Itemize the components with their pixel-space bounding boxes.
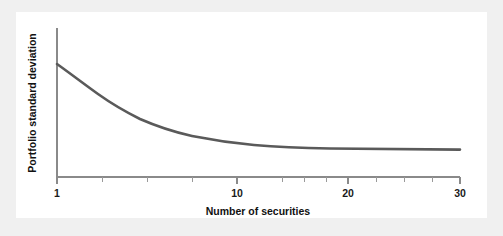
x-tick-label-1: 1 <box>54 187 60 199</box>
x-axis-ticks <box>57 177 460 184</box>
diversification-chart: 1 10 20 30 Number of securities Portfoli… <box>16 12 487 218</box>
portfolio-risk-curve <box>57 64 460 150</box>
x-tick-label-20: 20 <box>342 187 354 199</box>
chart-card: 1 10 20 30 Number of securities Portfoli… <box>16 12 487 218</box>
x-tick-label-30: 30 <box>454 187 466 199</box>
y-axis-title: Portfolio standard deviation <box>26 33 38 172</box>
x-tick-labels: 1 10 20 30 <box>54 187 466 199</box>
x-axis-title: Number of securities <box>206 205 311 217</box>
axes-group <box>57 28 460 177</box>
figure-root: 1 10 20 30 Number of securities Portfoli… <box>0 0 503 236</box>
x-tick-label-10: 10 <box>231 187 243 199</box>
